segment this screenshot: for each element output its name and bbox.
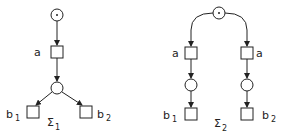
transition-a — [51, 46, 63, 58]
caption-sigma-1: Σ1 — [47, 116, 60, 132]
caption-sub: 1 — [55, 123, 60, 132]
label-b2-sub: 2 — [271, 115, 276, 124]
transition-b1 — [185, 108, 197, 120]
arc-p1-to-b2 — [62, 92, 82, 105]
token-icon — [56, 14, 58, 16]
transition-b2 — [241, 108, 253, 120]
place-right — [241, 79, 253, 91]
label-a-left: a — [172, 47, 179, 60]
caption-sigma-2: Σ2 — [214, 117, 227, 133]
label-b2-main: b — [97, 108, 104, 121]
caption-main: Σ — [47, 116, 54, 129]
transition-b1 — [27, 106, 39, 118]
arc-p1-to-b1 — [36, 92, 52, 105]
net-sigma-2: a a b1 b2 Σ2 — [163, 7, 276, 133]
label-b2-sub: 2 — [106, 114, 111, 123]
label-a: a — [34, 46, 41, 59]
transition-a-right — [241, 47, 253, 59]
transition-b2 — [80, 106, 92, 118]
label-b1-sub: 1 — [172, 115, 177, 124]
caption-main: Σ — [214, 117, 221, 130]
label-b2: b2 — [97, 108, 111, 123]
label-b2: b2 — [262, 109, 276, 124]
net-sigma-1: a b1 b2 Σ1 — [6, 9, 111, 132]
place-choice — [51, 82, 63, 94]
label-b1-main: b — [163, 109, 170, 122]
caption-sub: 2 — [222, 124, 227, 133]
transition-a-left — [185, 47, 197, 59]
arc-p0-to-a-left — [191, 13, 213, 46]
label-a-right: a — [256, 47, 263, 60]
arc-p0-to-a-right — [225, 13, 247, 46]
place-left — [185, 79, 197, 91]
token-icon — [218, 12, 220, 14]
label-b1-main: b — [6, 108, 13, 121]
label-b1: b1 — [6, 108, 20, 123]
label-b1-sub: 1 — [15, 114, 20, 123]
label-b2-main: b — [262, 109, 269, 122]
label-b1: b1 — [163, 109, 177, 124]
petri-net-diagram: a b1 b2 Σ1 a a b1 b2 Σ2 — [0, 0, 281, 139]
